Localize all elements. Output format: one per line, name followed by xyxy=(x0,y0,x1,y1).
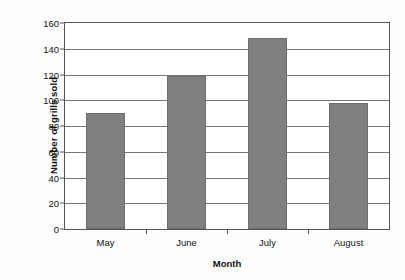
y-tick-mark xyxy=(60,126,65,127)
x-tick-label-may: May xyxy=(97,237,115,248)
gridline xyxy=(65,100,389,101)
y-tick-label: 0 xyxy=(54,224,59,235)
bar-july xyxy=(248,38,286,229)
y-tick-label: 120 xyxy=(43,69,59,80)
gridline xyxy=(65,49,389,50)
y-tick-label: 60 xyxy=(48,146,59,157)
bar-august xyxy=(329,103,367,229)
gridline xyxy=(65,75,389,76)
y-tick-mark xyxy=(60,229,65,230)
x-tick-mark xyxy=(308,229,309,234)
plot-area: 020406080100120140160 MayJuneJulyAugust xyxy=(64,22,390,230)
y-tick-label: 20 xyxy=(48,198,59,209)
y-tick-mark xyxy=(60,151,65,152)
bar-may xyxy=(86,113,124,229)
x-tick-mark xyxy=(146,229,147,234)
x-axis-title: Month xyxy=(64,258,390,269)
bar-june xyxy=(167,76,205,229)
y-tick-label: 80 xyxy=(48,121,59,132)
y-tick-label: 160 xyxy=(43,18,59,29)
y-tick-label: 100 xyxy=(43,95,59,106)
y-tick-label: 40 xyxy=(48,172,59,183)
x-tick-label-august: August xyxy=(334,237,364,248)
y-tick-mark xyxy=(60,74,65,75)
y-tick-mark xyxy=(60,23,65,24)
x-tick-label-june: June xyxy=(176,237,197,248)
y-tick-mark xyxy=(60,177,65,178)
bar-chart-figure: Number of grills sold 020406080100120140… xyxy=(0,0,405,280)
y-tick-mark xyxy=(60,203,65,204)
y-tick-label: 140 xyxy=(43,43,59,54)
x-tick-label-july: July xyxy=(259,237,276,248)
x-tick-mark xyxy=(227,229,228,234)
y-tick-mark xyxy=(60,100,65,101)
y-tick-mark xyxy=(60,48,65,49)
